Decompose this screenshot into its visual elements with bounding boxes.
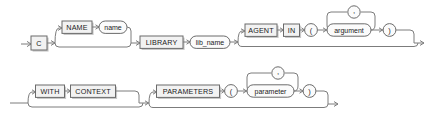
rail-bypass-agent-group bbox=[238, 42, 418, 47]
with-label: WITH bbox=[41, 87, 60, 96]
rail-bypass-parameters-group bbox=[149, 103, 328, 108]
rail-name-rejoin bbox=[127, 27, 131, 43]
name-variable-label: name bbox=[104, 24, 122, 31]
diagram-row-1: C NAME name bbox=[21, 6, 424, 52]
rail-bypass-name bbox=[55, 43, 131, 47]
agent-label: AGENT bbox=[248, 26, 274, 35]
lib-name-label: lib_name bbox=[196, 39, 225, 47]
comma-2-label: , bbox=[277, 67, 279, 76]
in-label: IN bbox=[288, 26, 296, 35]
comma-1-label: , bbox=[353, 6, 355, 15]
rail-rparen2-rejoin bbox=[316, 91, 328, 104]
rail-branch-up-parameters bbox=[149, 92, 156, 103]
parameter-label: parameter bbox=[255, 88, 288, 96]
rail-bypass-with-context bbox=[28, 103, 143, 107]
argument-label: argument bbox=[334, 27, 364, 35]
rail-context-rejoin bbox=[116, 91, 140, 103]
rail-rparen1-rejoin bbox=[396, 30, 414, 43]
railroad-diagram-canvas: C NAME name bbox=[0, 0, 435, 121]
c-label: C bbox=[36, 39, 41, 48]
context-label: CONTEXT bbox=[75, 87, 111, 96]
diagram-row-2: WITH CONTEXT PARAMETERS bbox=[10, 67, 338, 108]
parameters-label: PARAMETERS bbox=[163, 87, 214, 96]
railroad-diagram-svg: C NAME name bbox=[0, 0, 435, 121]
rail-branch-up-with bbox=[28, 92, 35, 103]
name-keyword-label: NAME bbox=[66, 23, 87, 32]
library-label: LIBRARY bbox=[146, 38, 178, 47]
